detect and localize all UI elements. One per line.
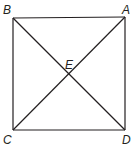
label-b: B — [3, 3, 11, 17]
segment-ba — [13, 17, 125, 18]
label-d: D — [122, 133, 131, 146]
label-c: C — [3, 133, 12, 146]
label-e: E — [65, 58, 74, 72]
label-a: A — [121, 3, 130, 17]
geometry-diagram: B A E C D — [0, 0, 136, 146]
